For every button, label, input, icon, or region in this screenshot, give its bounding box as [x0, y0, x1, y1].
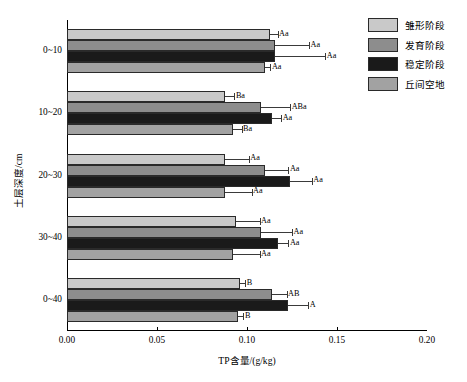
- sig-label-20-30-series1: Aa: [290, 165, 300, 173]
- errorbar-line-10-20-series3: [233, 129, 242, 130]
- legend-swatch-1: [368, 38, 398, 52]
- errorbar-line-10-20-series0: [225, 96, 234, 97]
- ytick-label-0-40: 0~40: [12, 294, 62, 304]
- errorbar-line-30-40-series0: [236, 221, 259, 222]
- sig-label-30-40-series0: Aa: [261, 217, 271, 225]
- sig-label-20-30-series0: Aa: [250, 154, 260, 162]
- sig-label-0-10-series2: Aa: [327, 52, 337, 60]
- xtick-label-1: 0.05: [135, 335, 179, 345]
- bar-0-40-series2: [67, 300, 288, 311]
- errorbar-line-20-30-series2: [290, 181, 312, 182]
- errorbar-line-20-30-series1: [265, 170, 288, 171]
- legend-label-2: 稳定阶段: [405, 57, 445, 71]
- sig-label-10-20-series0: Ba: [236, 92, 245, 100]
- ytick-label-10-20: 10~20: [12, 107, 62, 117]
- sig-label-0-10-series0: Aa: [279, 30, 289, 38]
- bar-20-30-series3: [67, 187, 225, 198]
- bar-30-40-series1: [67, 227, 261, 238]
- sig-label-0-40-series3: B: [245, 312, 250, 320]
- legend-label-3: 丘间空地: [405, 77, 445, 91]
- bar-10-20-series0: [67, 91, 225, 102]
- errorbar-line-0-10-series0: [270, 34, 277, 35]
- sig-label-0-40-series2: A: [310, 301, 316, 309]
- bar-0-10-series0: [67, 29, 270, 40]
- bar-0-10-series2: [67, 51, 275, 62]
- sig-label-10-20-series2: Aa: [283, 114, 293, 122]
- xtick-mark-3: [337, 327, 338, 331]
- legend-item-3[interactable]: 丘间空地: [368, 77, 445, 91]
- sig-label-0-40-series1: AB: [288, 290, 299, 298]
- errorbar-line-10-20-series1: [261, 107, 290, 108]
- errorbar-line-20-30-series3: [225, 192, 252, 193]
- legend-swatch-3: [368, 77, 398, 91]
- bar-20-30-series2: [67, 176, 290, 187]
- ytick-label-30-40: 30~40: [12, 232, 62, 242]
- legend-label-1: 发育阶段: [405, 38, 445, 52]
- legend-item-2[interactable]: 稳定阶段: [368, 57, 445, 71]
- sig-label-30-40-series1: Aa: [294, 228, 304, 236]
- legend-swatch-0: [368, 18, 398, 32]
- ytick-label-0-10: 0~10: [12, 45, 62, 55]
- xtick-mark-2: [247, 327, 248, 331]
- bar-10-20-series1: [67, 102, 261, 113]
- bar-30-40-series2: [67, 238, 278, 249]
- bar-20-30-series1: [67, 165, 265, 176]
- xtick-label-2: 0.10: [225, 335, 269, 345]
- errorbar-line-30-40-series1: [261, 232, 292, 233]
- bar-0-40-series3: [67, 311, 238, 322]
- bar-0-40-series1: [67, 289, 272, 300]
- legend-label-0: 雏形阶段: [405, 18, 445, 32]
- bar-10-20-series3: [67, 124, 233, 135]
- sig-label-10-20-series3: Ba: [243, 125, 252, 133]
- sig-label-0-10-series1: Aa: [311, 41, 321, 49]
- errorbar-line-30-40-series2: [278, 243, 289, 244]
- sig-label-30-40-series3: Aa: [261, 250, 271, 258]
- sig-label-0-10-series3: Aa: [272, 63, 282, 71]
- chart-legend: 雏形阶段发育阶段稳定阶段丘间空地: [368, 18, 464, 100]
- x-axis-title: TP含量/(g/kg): [67, 353, 427, 367]
- bar-30-40-series3: [67, 249, 233, 260]
- sig-label-0-40-series0: B: [247, 279, 252, 287]
- bar-0-10-series1: [67, 40, 275, 51]
- bar-10-20-series2: [67, 113, 272, 124]
- legend-swatch-2: [368, 57, 398, 71]
- sig-label-10-20-series1: ABa: [292, 103, 307, 111]
- y-axis-title: 土层深度/cm: [11, 153, 25, 207]
- bar-0-40-series0: [67, 278, 240, 289]
- errorbar-line-0-40-series1: [272, 294, 286, 295]
- xtick-label-3: 0.15: [315, 335, 359, 345]
- errorbar-line-0-10-series1: [275, 45, 309, 46]
- errorbar-line-0-10-series2: [275, 56, 325, 57]
- sig-label-20-30-series3: Aa: [253, 187, 263, 195]
- errorbar-line-0-40-series2: [288, 305, 308, 306]
- bar-20-30-series0: [67, 154, 225, 165]
- sig-label-20-30-series2: Aa: [313, 176, 323, 184]
- bar-0-10-series3: [67, 62, 265, 73]
- errorbar-line-20-30-series0: [225, 159, 248, 160]
- legend-item-1[interactable]: 发育阶段: [368, 38, 445, 52]
- errorbar-line-10-20-series2: [272, 118, 281, 119]
- xtick-label-0: 0.00: [45, 335, 89, 345]
- chart-container: 0~10AaAaAaAa10~20BaABaAaBa20~30AaAaAaAa3…: [0, 0, 467, 382]
- errorbar-line-30-40-series3: [233, 254, 260, 255]
- xtick-mark-1: [157, 327, 158, 331]
- legend-item-0[interactable]: 雏形阶段: [368, 18, 445, 32]
- sig-label-30-40-series2: Aa: [290, 239, 300, 247]
- xtick-label-4: 0.20: [405, 335, 449, 345]
- bar-30-40-series0: [67, 216, 236, 227]
